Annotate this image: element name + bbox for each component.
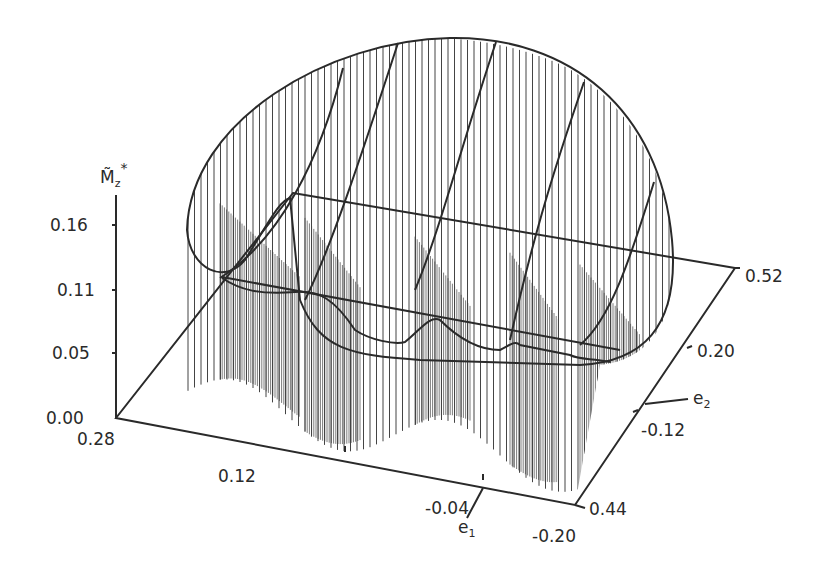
e2-tick-label-044: 0.44 [589,499,627,519]
ridge-curve-3 [415,42,496,290]
z-axis-title: M̃z* [100,160,127,190]
z-tick-label-000: 0.00 [46,408,84,428]
e1-tick-label-028: 0.28 [77,429,115,449]
e2-tick-label-020: 0.20 [697,341,735,361]
hatch-lines [188,38,669,492]
z-tick-label-011: 0.11 [57,280,95,300]
e1-label-leader [467,488,483,518]
z-tick-label-005: 0.05 [52,343,90,363]
surface-plot: 0.16 0.11 0.05 0.00 M̃z* 0.28 0.12 -0.04… [0,0,839,578]
e1-tick-label-012: 0.12 [218,466,256,486]
e2-axis-title: e2 [693,388,710,411]
e2-tick-label-m012: -0.12 [641,420,685,440]
e1-tick-label-m020: -0.20 [532,526,576,546]
z-tick-label-016: 0.16 [50,215,88,235]
e1-axis-title: e1 [458,517,475,540]
e2-tick-label-052: 0.52 [745,266,783,286]
e1-tick-label-m004: -0.04 [425,498,469,518]
ridge-curve-2 [305,43,398,300]
e2-label-leader [645,399,688,404]
e2-tick-020 [687,346,692,348]
e2-tick-044 [575,505,585,508]
